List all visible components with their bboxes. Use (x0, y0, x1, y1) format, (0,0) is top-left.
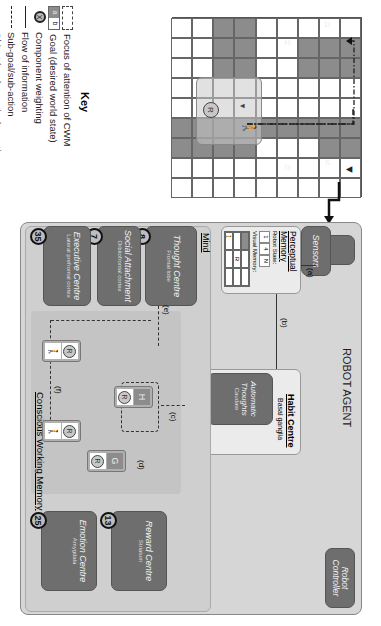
key-item-flow: Flow of information (20, 6, 32, 162)
grid-label-g: G (284, 163, 290, 172)
goal-box-icon: a b (48, 6, 60, 30)
weight-badge-executive-centre: 35 (30, 228, 47, 245)
arrow-perceptual-to-habit (276, 294, 277, 369)
diagram-stage: R 🚶 ▼ ▼ H G D S Key Focus of attention o… (0, 0, 381, 626)
key-item-focus: Focus of attention of CWM (62, 6, 74, 162)
arrow-label-c: (c) (169, 412, 178, 421)
robot-controller-box[interactable]: Robot Controller (325, 548, 355, 608)
key-title: Key (79, 92, 91, 112)
cwm-goal-h: H R (114, 386, 153, 408)
thought-centre-box: Thought Centre Frontal lobe (145, 226, 197, 306)
executive-centre-box: Executive Centre Lateral prefrontal cort… (43, 226, 91, 306)
key-item-weighting: X Component weighting (34, 6, 46, 162)
habit-centre-subtitle: Basal ganglia (277, 398, 284, 440)
dash-f-horizontal (50, 320, 51, 435)
weight-badge-emotion-centre: 25 (30, 512, 47, 529)
solid-arrow-icon (26, 6, 27, 28)
arrow-label-d: (d) (137, 460, 146, 470)
arrow-label-b: (b) (280, 318, 289, 328)
robot-state-label: Robot State: (272, 231, 278, 264)
arrow-label-f: (f) (54, 386, 63, 394)
grid-to-sensors-arrow (311, 120, 361, 230)
arrow-label-e: (e) (162, 305, 171, 315)
habit-centre-title: Habit Centre (286, 394, 296, 448)
reward-centre-box: Reward Centre Striatum (111, 511, 167, 591)
arrow-sensors-to-perceptual (301, 265, 316, 266)
dash-e (158, 306, 159, 346)
robot-state-values: 1 4 N (259, 231, 270, 267)
agent-title: ROBOT AGENT (341, 348, 353, 427)
dashed-rect-icon (63, 6, 74, 30)
visual-memory-label: Visual Memory: (252, 231, 258, 272)
dashed-arrow-icon (12, 6, 13, 28)
automatic-thoughts-box: Automatic Thoughts Caudate (207, 373, 273, 425)
key-item-goal: a b Goal (desired world state) (48, 6, 60, 162)
arrow-label-a: (a) (306, 268, 315, 278)
key-item-creation: ◆ Object (goal or action) creation (0, 6, 4, 162)
visual-memory-human: 🚶 (225, 232, 233, 250)
social-attachment-box: Social Attachment Orbitofrontal cortex (97, 226, 141, 306)
grid-label-h: H (285, 38, 291, 47)
grid-label-d: D (325, 20, 331, 29)
emotion-centre-box: Emotion Centre Amygdala (41, 511, 97, 591)
cwm-goal-g: G R (87, 450, 126, 472)
dash-c (161, 405, 185, 406)
weighting-circle-icon: X (34, 11, 46, 23)
mind-title: Mind (201, 233, 211, 253)
perceptual-memory-title: Perceptual Memory (280, 231, 297, 293)
weight-badge-reward-centre: 13 (100, 512, 117, 529)
key-panel: Key Focus of attention of CWM a b Goal (… (1, 2, 149, 202)
cwm-subgoal-1: R 🚶 (42, 340, 81, 362)
visual-memory-grid: R 🚶 (224, 231, 250, 287)
cwm-title: Conscious Working Memory (35, 392, 45, 511)
cwm-subgoal-2: R 🚶 (42, 420, 81, 442)
perceptual-memory-box: Perceptual Memory Robot State: 1 4 N Vis… (221, 226, 301, 294)
visual-memory-robot: R (233, 250, 241, 268)
key-item-subgoal: Sub-goal/sub-action (6, 6, 18, 162)
dash-f-vertical (51, 320, 151, 321)
